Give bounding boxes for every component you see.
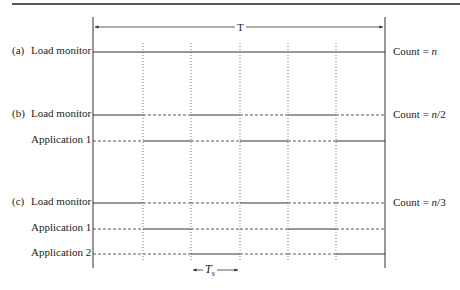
count-prefix: Count = bbox=[393, 45, 432, 57]
slot-label-main: T bbox=[205, 262, 212, 276]
period-label: T bbox=[235, 21, 246, 33]
count-label: Count = n/2 bbox=[393, 108, 446, 120]
row-label: Application 1 bbox=[31, 133, 91, 145]
count-suffix: /2 bbox=[437, 108, 446, 120]
row-label: Application 1 bbox=[31, 221, 91, 233]
row-label: Load monitor bbox=[31, 195, 91, 207]
panel-tag: (a) bbox=[12, 44, 24, 56]
row-label: Load monitor bbox=[31, 44, 91, 56]
slot-label-sub: s bbox=[212, 269, 215, 278]
slot-label: Ts bbox=[203, 263, 217, 280]
count-prefix: Count = bbox=[393, 196, 432, 208]
process-timelines bbox=[93, 52, 385, 254]
count-label: Count = n/3 bbox=[393, 196, 446, 208]
row-label: Load monitor bbox=[31, 107, 91, 119]
count-suffix: /3 bbox=[437, 196, 446, 208]
panel-tag: (b) bbox=[12, 107, 25, 119]
count-value: n bbox=[432, 45, 438, 57]
count-label: Count = n bbox=[393, 45, 437, 57]
count-prefix: Count = bbox=[393, 108, 432, 120]
panel-tag: (c) bbox=[12, 195, 24, 207]
row-label: Application 2 bbox=[31, 246, 91, 258]
